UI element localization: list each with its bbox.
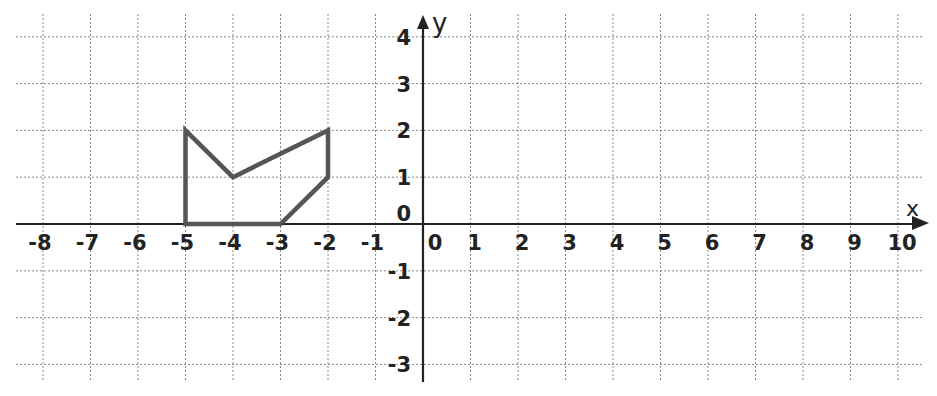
y-tick-label: 2 [396, 119, 411, 143]
x-tick-label: 10 [887, 231, 916, 255]
x-tick-labels: -8-7-6-5-4-3-2-1012345678910 [28, 231, 916, 255]
axes: x y [16, 8, 929, 382]
grid-lines [16, 14, 923, 380]
x-tick-label: -2 [313, 231, 336, 255]
x-tick-label: 9 [847, 231, 862, 255]
x-tick-label: -5 [171, 231, 194, 255]
y-tick-label: 1 [396, 166, 411, 190]
y-tick-label: -2 [388, 307, 411, 331]
x-tick-label: 6 [705, 231, 720, 255]
y-tick-label: 0 [396, 202, 411, 226]
x-tick-label: -8 [28, 231, 51, 255]
y-axis-label: y [432, 8, 447, 38]
y-tick-label: -3 [388, 353, 411, 377]
y-tick-label: 4 [396, 26, 411, 50]
y-axis-arrow-icon [417, 15, 429, 29]
coordinate-plane: x y -8-7-6-5-4-3-2-1012345678910 43210-1… [0, 0, 937, 396]
x-tick-label: -4 [218, 231, 241, 255]
x-tick-label: -1 [361, 231, 384, 255]
y-tick-label: 3 [396, 73, 411, 97]
x-tick-label: 7 [752, 231, 767, 255]
x-tick-label: 4 [610, 231, 625, 255]
x-tick-label: 0 [428, 231, 443, 255]
x-tick-label: 5 [657, 231, 672, 255]
y-tick-label: -1 [388, 260, 411, 284]
x-tick-label: 1 [467, 231, 482, 255]
x-tick-label: -6 [123, 231, 146, 255]
x-tick-label: -3 [266, 231, 289, 255]
x-tick-label: 3 [562, 231, 577, 255]
y-tick-labels: 43210-1-2-3 [388, 26, 411, 378]
x-axis-label: x [906, 196, 919, 221]
x-tick-label: -7 [76, 231, 99, 255]
x-tick-label: 8 [800, 231, 815, 255]
x-tick-label: 2 [515, 231, 530, 255]
